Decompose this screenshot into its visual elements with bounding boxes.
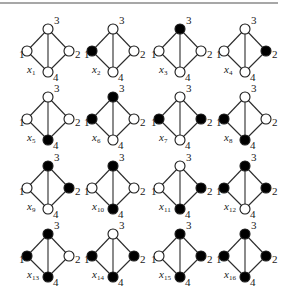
node-2-empty	[64, 46, 74, 56]
node-label-3: 3	[119, 82, 125, 94]
graph-x4: 1234x4	[216, 14, 278, 83]
graph-label: x3	[158, 63, 168, 77]
graph-x3: 1234x3	[151, 14, 213, 83]
graph-x12: 1234x12	[216, 151, 278, 220]
graph-label: x5	[26, 131, 36, 145]
node-label-3: 3	[119, 151, 125, 163]
node-2-filled	[261, 251, 271, 261]
node-4-filled	[43, 135, 53, 145]
node-4-empty	[43, 67, 53, 77]
graph-x6: 1234x6	[84, 82, 146, 151]
node-label-4: 4	[185, 139, 191, 151]
node-3-filled	[43, 161, 53, 171]
node-3-empty	[108, 24, 118, 34]
node-label-1: 1	[19, 185, 25, 197]
node-label-1: 1	[216, 253, 222, 265]
node-label-3: 3	[186, 14, 192, 26]
graph-label: x8	[223, 131, 233, 145]
node-label-3: 3	[186, 82, 192, 94]
graph-x11: 1234x11	[151, 151, 213, 220]
node-label-3: 3	[54, 14, 60, 26]
graph-state-figure: 1234x11234x21234x31234x41234x51234x61234…	[0, 0, 290, 303]
graph-x13: 1234x13	[19, 219, 81, 288]
node-label-3: 3	[54, 151, 60, 163]
graph-grid: 1234x11234x21234x31234x41234x51234x61234…	[19, 14, 278, 288]
node-4-filled	[108, 272, 118, 282]
node-2-empty	[129, 183, 139, 193]
node-3-filled	[43, 229, 53, 239]
node-label-3: 3	[251, 14, 257, 26]
node-label-1: 1	[216, 116, 222, 128]
node-label-3: 3	[54, 82, 60, 94]
node-4-filled	[175, 204, 185, 214]
node-3-empty	[43, 92, 53, 102]
node-3-filled	[175, 229, 185, 239]
node-label-4: 4	[53, 139, 59, 151]
graph-label: x2	[91, 63, 101, 77]
graph-x2: 1234x2	[84, 14, 146, 83]
graph-label: x14	[91, 268, 104, 282]
node-label-2: 2	[140, 253, 146, 265]
graph-x14: 1234x14	[84, 219, 146, 288]
node-label-3: 3	[251, 219, 257, 231]
node-label-1: 1	[84, 253, 90, 265]
node-2-filled	[196, 183, 206, 193]
graph-label: x1	[26, 63, 36, 77]
graph-label: x15	[158, 268, 171, 282]
node-label-3: 3	[251, 151, 257, 163]
node-3-empty	[240, 24, 250, 34]
graph-label: x12	[223, 200, 236, 214]
node-label-2: 2	[140, 48, 146, 60]
node-3-empty	[43, 24, 53, 34]
node-label-1: 1	[151, 185, 157, 197]
node-4-filled	[175, 272, 185, 282]
node-4-empty	[240, 204, 250, 214]
node-label-2: 2	[207, 48, 213, 60]
node-label-3: 3	[119, 219, 125, 231]
node-label-4: 4	[53, 276, 59, 288]
node-label-1: 1	[84, 185, 90, 197]
node-label-2: 2	[75, 48, 81, 60]
node-2-empty	[129, 114, 139, 124]
node-2-filled	[129, 251, 139, 261]
node-2-empty	[64, 114, 74, 124]
node-3-empty	[175, 92, 185, 102]
node-label-2: 2	[272, 185, 278, 197]
graph-label: x16	[223, 268, 236, 282]
node-4-empty	[108, 67, 118, 77]
node-3-empty	[175, 161, 185, 171]
graph-x15: 1234x15	[151, 219, 213, 288]
node-2-empty	[261, 114, 271, 124]
node-label-2: 2	[207, 116, 213, 128]
graph-x8: 1234x8	[216, 82, 278, 151]
node-label-1: 1	[19, 48, 25, 60]
node-label-3: 3	[186, 151, 192, 163]
node-label-1: 1	[151, 253, 157, 265]
node-label-1: 1	[84, 116, 90, 128]
node-label-1: 1	[216, 48, 222, 60]
node-3-empty	[240, 92, 250, 102]
node-label-2: 2	[140, 185, 146, 197]
node-label-1: 1	[216, 185, 222, 197]
node-label-4: 4	[118, 139, 124, 151]
node-label-4: 4	[118, 276, 124, 288]
node-label-1: 1	[84, 48, 90, 60]
node-4-empty	[175, 67, 185, 77]
node-2-filled	[64, 183, 74, 193]
node-4-empty	[108, 135, 118, 145]
graph-label: x10	[91, 200, 104, 214]
graph-x10: 1234x10	[84, 151, 146, 220]
node-label-2: 2	[75, 185, 81, 197]
node-label-2: 2	[75, 116, 81, 128]
node-label-1: 1	[151, 116, 157, 128]
graph-x16: 1234x16	[216, 219, 278, 288]
node-3-filled	[240, 161, 250, 171]
node-label-2: 2	[272, 253, 278, 265]
node-2-filled	[196, 114, 206, 124]
node-label-3: 3	[251, 82, 257, 94]
graph-x5: 1234x5	[19, 82, 81, 151]
node-4-empty	[43, 204, 53, 214]
graph-label: x13	[26, 268, 39, 282]
node-2-filled	[261, 183, 271, 193]
graph-label: x7	[158, 131, 168, 145]
